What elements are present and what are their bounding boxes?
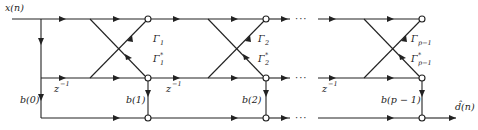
delay-label-p: z −1 (321, 80, 338, 94)
arrowheads (38, 16, 456, 121)
summing-nodes (145, 16, 425, 121)
svg-text:2: 2 (264, 59, 269, 67)
gamma-conj-label-1: Γ 1 * (152, 51, 164, 67)
tap-label-0: b(0) (20, 94, 40, 105)
svg-text:*: * (265, 51, 269, 59)
svg-text:p−1: p−1 (418, 59, 432, 67)
svg-text:p−1: p−1 (418, 39, 432, 47)
svg-text:z: z (53, 83, 60, 94)
svg-text:Γ: Γ (257, 53, 265, 64)
gamma-conj-label-p: Γ p−1 * (410, 51, 432, 67)
gamma-label-1: Γ 1 (152, 33, 164, 47)
input-label: x(n) (5, 2, 24, 13)
svg-text:2: 2 (264, 39, 269, 47)
svg-text:*: * (160, 51, 164, 59)
lattice-ladder-diagram: x(n) (0, 0, 478, 130)
lattice-cross-1 (90, 19, 146, 78)
delay-label-1: z −1 (53, 80, 70, 94)
continuation-dots-bottom: ··· (295, 112, 308, 123)
svg-text:Γ: Γ (257, 33, 265, 44)
tap-label-p: b(p − 1) (381, 94, 421, 105)
svg-text:z: z (165, 83, 172, 94)
gamma-label-p: Γ p−1 (410, 33, 432, 47)
lattice-cross-2 (208, 19, 264, 78)
gamma-conj-label-2: Γ 2 * (257, 51, 269, 67)
svg-text:*: * (418, 51, 422, 59)
lattice-cross-p (364, 19, 420, 78)
svg-text:Γ: Γ (152, 53, 160, 64)
svg-text:Γ: Γ (152, 33, 160, 44)
svg-text:Γ: Γ (410, 53, 418, 64)
delay-label-2: z −1 (165, 80, 182, 94)
svg-text:1: 1 (160, 59, 164, 67)
svg-text:−1: −1 (328, 80, 338, 88)
svg-text:−1: −1 (172, 80, 182, 88)
gamma-label-2: Γ 2 (257, 33, 269, 47)
output-label: d̂(n) (455, 100, 475, 112)
svg-text:Γ: Γ (410, 33, 418, 44)
svg-text:−1: −1 (60, 80, 70, 88)
svg-text:z: z (321, 83, 328, 94)
continuation-dots-top: ··· (295, 13, 308, 24)
tap-label-2: b(2) (242, 94, 262, 105)
svg-text:1: 1 (160, 39, 164, 47)
tap-label-1: b(1) (126, 94, 146, 105)
continuation-dots-middle: ··· (295, 72, 308, 83)
